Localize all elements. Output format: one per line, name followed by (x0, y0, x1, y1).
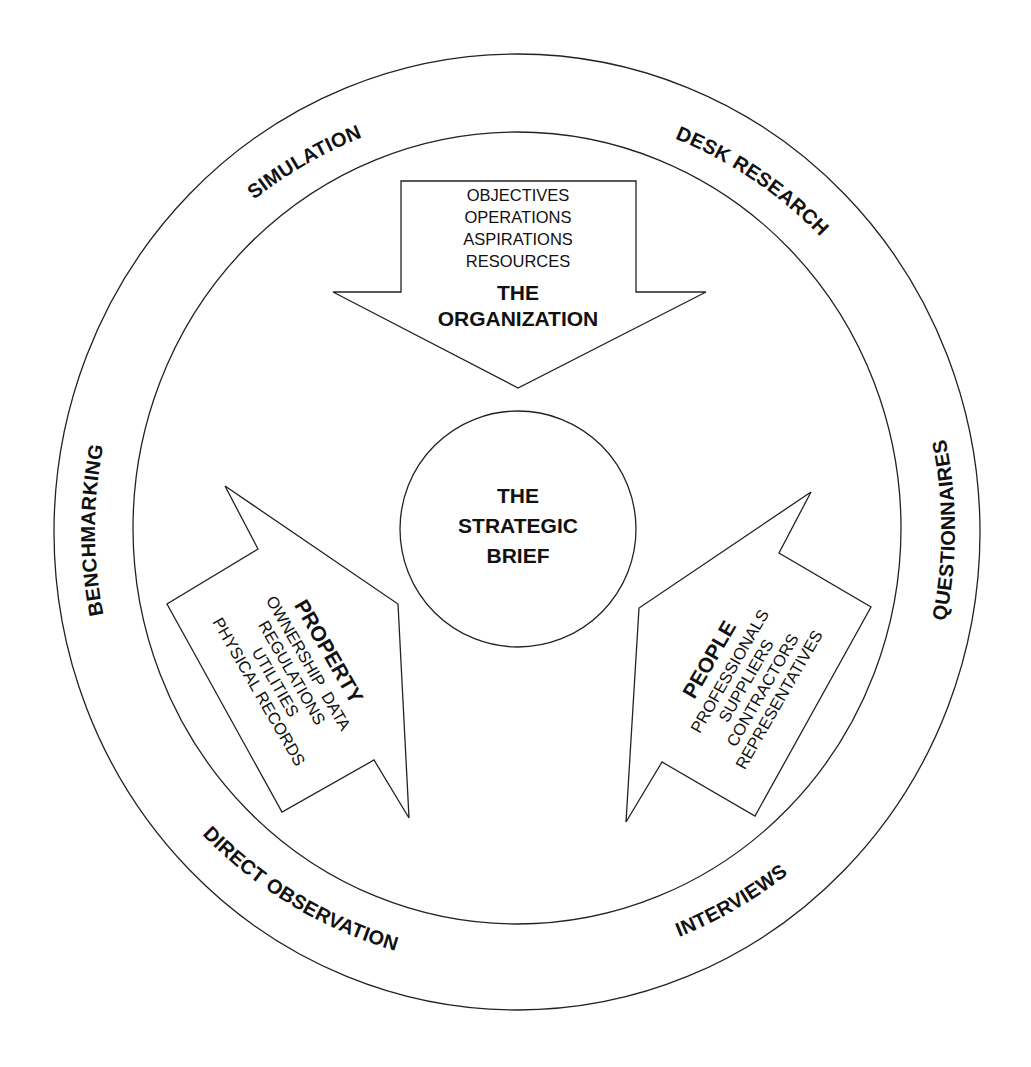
strategic-brief-center: THE STRATEGIC BRIEF (400, 411, 636, 647)
people-arrow: PEOPLE PROFESSIONALS SUPPLIERS CONTRACTO… (626, 492, 871, 822)
ring-label-direct-observation: DIRECT OBSERVATION (199, 822, 401, 955)
organization-arrow: OBJECTIVES OPERATIONS ASPIRATIONS RESOUR… (333, 181, 706, 388)
ring-label-benchmarking: BENCHMARKING (77, 442, 107, 618)
organization-item: ASPIRATIONS (463, 230, 573, 248)
organization-title: THE (497, 281, 539, 304)
strategic-brief-diagram: SIMULATION DESK RESEARCH BENCHMARKING QU… (0, 0, 1031, 1067)
center-label: BRIEF (487, 544, 550, 567)
ring-label-interviews: INTERVIEWS (672, 859, 791, 940)
center-label: STRATEGIC (458, 514, 578, 537)
organization-item: OBJECTIVES (467, 186, 570, 204)
ring-label-questionnaires: QUESTIONNAIRES (928, 438, 959, 622)
organization-title: ORGANIZATION (438, 307, 599, 330)
ring-label-desk-research: DESK RESEARCH (673, 122, 833, 240)
organization-item: OPERATIONS (465, 208, 572, 226)
center-label: THE (497, 484, 539, 507)
property-arrow: PROPERTY OWNERSHIP DATA REGULATIONS UTIL… (167, 486, 409, 818)
organization-item: RESOURCES (466, 252, 571, 270)
